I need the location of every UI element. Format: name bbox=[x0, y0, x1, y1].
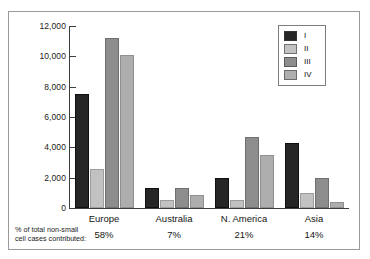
bar-group bbox=[75, 26, 134, 208]
y-tick-label: 0 bbox=[6, 203, 66, 213]
legend-label: I bbox=[304, 32, 306, 40]
legend-swatch bbox=[284, 44, 297, 54]
legend-swatch bbox=[284, 31, 297, 41]
category-label: Asia bbox=[279, 213, 349, 224]
bar bbox=[230, 200, 244, 208]
bar bbox=[160, 200, 174, 208]
legend-swatch bbox=[284, 70, 297, 80]
y-tick-label: 6,000 bbox=[6, 112, 66, 122]
bar bbox=[190, 195, 204, 208]
bar bbox=[120, 55, 134, 208]
y-tick-mark bbox=[70, 208, 76, 209]
y-tick-label: 8,000 bbox=[6, 82, 66, 92]
bar bbox=[75, 94, 89, 208]
footnote-annotation: % of total non-small cell cases contribu… bbox=[15, 225, 133, 243]
bar bbox=[215, 178, 229, 208]
legend-item: IV bbox=[284, 69, 321, 81]
category-percentage: 21% bbox=[209, 229, 279, 240]
chart-plot-area: 02,0004,0006,0008,00010,00012,000 Europe… bbox=[9, 12, 361, 251]
bar bbox=[330, 202, 344, 208]
bar-group bbox=[215, 26, 274, 208]
y-tick-label: 10,000 bbox=[6, 51, 66, 61]
category-percentage: 7% bbox=[139, 229, 209, 240]
category-label: Europe bbox=[69, 213, 139, 224]
footnote-line-1: % of total non-small bbox=[15, 225, 133, 234]
legend-label: III bbox=[304, 58, 311, 66]
y-tick-label: 12,000 bbox=[6, 21, 66, 31]
bar bbox=[90, 169, 104, 208]
bar bbox=[175, 188, 189, 208]
legend-label: II bbox=[304, 45, 308, 53]
category-percentage: 14% bbox=[279, 229, 349, 240]
bar bbox=[105, 38, 119, 208]
bar bbox=[285, 143, 299, 208]
bar bbox=[245, 137, 259, 208]
y-tick-label: 4,000 bbox=[6, 142, 66, 152]
legend-label: IV bbox=[304, 71, 312, 79]
y-tick-label: 2,000 bbox=[6, 173, 66, 183]
bar-group bbox=[145, 26, 204, 208]
bar bbox=[315, 178, 329, 208]
bar bbox=[145, 188, 159, 208]
legend-item: II bbox=[284, 43, 321, 55]
chart-legend: IIIIIIIV bbox=[278, 25, 326, 86]
footnote-line-2: cell cases contributed: bbox=[15, 234, 133, 243]
category-label: N. America bbox=[209, 213, 279, 224]
figure-frame: 02,0004,0006,0008,00010,00012,000 Europe… bbox=[8, 11, 360, 250]
bar bbox=[260, 155, 274, 208]
bar bbox=[300, 193, 314, 208]
x-axis-line bbox=[69, 208, 349, 209]
legend-swatch bbox=[284, 57, 297, 67]
category-label: Australia bbox=[139, 213, 209, 224]
legend-item: III bbox=[284, 56, 321, 68]
legend-item: I bbox=[284, 30, 321, 42]
